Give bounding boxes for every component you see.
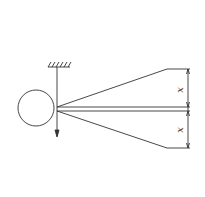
central-horizontal-rod — [57, 107, 190, 111]
upper-diverging-line — [57, 69, 167, 107]
diagram-canvas: x x — [0, 0, 205, 197]
lower-diverging-line — [57, 111, 167, 148]
downward-arrow-icon — [55, 130, 59, 137]
dimension-line-right — [187, 69, 190, 148]
lower-dimension-label: x — [174, 127, 185, 133]
mechanics-diagram: x x — [0, 0, 205, 197]
upper-dimension-label: x — [174, 87, 185, 93]
circle-mass — [18, 90, 54, 126]
fixed-support-hatch — [48, 62, 71, 67]
